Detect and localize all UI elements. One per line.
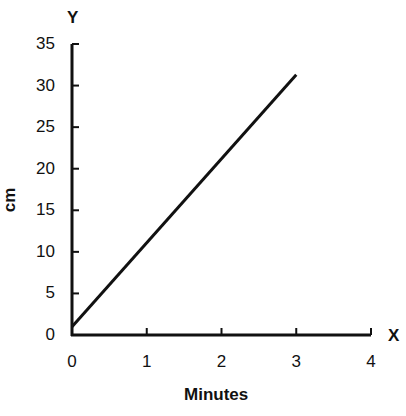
- y-tick-label: 5: [25, 283, 55, 303]
- y-tick-label: 0: [25, 325, 55, 345]
- y-tick-label: 20: [25, 159, 55, 179]
- x-tick-label: 2: [212, 352, 232, 372]
- y-axis-letter: Y: [67, 8, 78, 28]
- data-line: [72, 75, 296, 327]
- y-tick-label: 15: [25, 200, 55, 220]
- y-tick-label: 35: [25, 34, 55, 54]
- y-axis-label: cm: [0, 188, 20, 213]
- x-tick-label: 3: [286, 352, 306, 372]
- y-tick-label: 10: [25, 242, 55, 262]
- y-tick-label: 25: [25, 117, 55, 137]
- x-axis-label: Minutes: [184, 385, 248, 405]
- y-tick-label: 30: [25, 76, 55, 96]
- x-axis-letter: X: [388, 326, 399, 346]
- x-tick-label: 4: [361, 352, 381, 372]
- x-tick-label: 0: [62, 352, 82, 372]
- chart-canvas: [0, 0, 406, 416]
- x-tick-label: 1: [137, 352, 157, 372]
